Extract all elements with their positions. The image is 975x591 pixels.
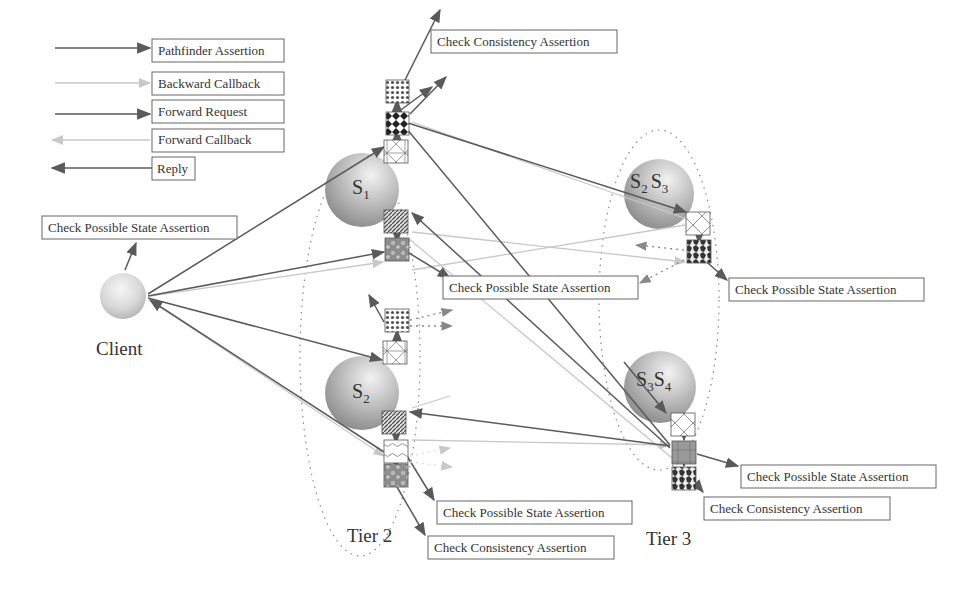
svg-text:Check Consistency Assertion: Check Consistency Assertion bbox=[710, 501, 863, 516]
svg-text:Check Consistency Assertion: Check Consistency Assertion bbox=[434, 540, 587, 555]
s3s4-state-x bbox=[671, 413, 695, 436]
legend-label-pathfinder: Pathfinder Assertion bbox=[158, 43, 265, 58]
s2-state-marble bbox=[384, 464, 408, 487]
assertion-client-possible-state: Check Possible State Assertion bbox=[42, 216, 237, 239]
s1-state-diamond bbox=[386, 112, 409, 135]
assertion-s2s3-possible-state: Check Possible State Assertion bbox=[729, 278, 924, 301]
distributed-assertion-diagram: Pathfinder Assertion Backward Callback F… bbox=[0, 0, 975, 591]
s3s4-state-grey bbox=[672, 441, 696, 464]
client-node bbox=[100, 273, 146, 319]
s1-state-web bbox=[384, 140, 408, 163]
s2-state-cloud bbox=[384, 440, 408, 463]
s1-state-dots bbox=[386, 80, 409, 103]
assertion-s3s4-consistency: Check Consistency Assertion bbox=[704, 497, 890, 520]
s2-state-hatch bbox=[382, 411, 406, 434]
svg-text:Check Possible State Assertion: Check Possible State Assertion bbox=[747, 469, 909, 484]
assertion-s1-consistency: Check Consistency Assertion bbox=[431, 30, 617, 53]
s3s4-state-rock bbox=[672, 467, 696, 490]
client-label: Client bbox=[96, 338, 143, 359]
assertion-s2-consistency: Check Consistency Assertion bbox=[428, 536, 614, 559]
legend-label-reply: Reply bbox=[157, 161, 189, 176]
svg-text:Check Possible State Assertion: Check Possible State Assertion bbox=[735, 282, 897, 297]
assertion-s3s4-possible-state: Check Possible State Assertion bbox=[741, 465, 936, 488]
svg-text:Check Possible State Assertion: Check Possible State Assertion bbox=[449, 280, 611, 295]
s3s4-stack bbox=[671, 413, 696, 490]
s1-state-marble bbox=[385, 238, 409, 261]
legend-label-forward-request: Forward Request bbox=[158, 104, 248, 119]
svg-text:Check Possible State Assertion: Check Possible State Assertion bbox=[48, 220, 210, 235]
tier2-label: Tier 2 bbox=[347, 525, 392, 546]
svg-text:Check Possible State Assertion: Check Possible State Assertion bbox=[443, 505, 605, 520]
legend-label-forward-callback: Forward Callback bbox=[158, 132, 252, 147]
s1-state-hatch bbox=[384, 210, 408, 233]
assertion-s2-possible-state: Check Possible State Assertion bbox=[437, 501, 632, 524]
s2s3-state-x bbox=[686, 212, 710, 235]
legend: Pathfinder Assertion Backward Callback F… bbox=[52, 39, 284, 180]
assertion-s1-possible-state: Check Possible State Assertion bbox=[443, 276, 638, 299]
s2-state-dots bbox=[385, 309, 409, 332]
svg-text:Check Consistency Assertion: Check Consistency Assertion bbox=[437, 34, 590, 49]
s2-state-web bbox=[383, 341, 407, 364]
legend-label-backward-callback: Backward Callback bbox=[158, 76, 261, 91]
tier3-label: Tier 3 bbox=[646, 528, 691, 549]
s2s3-state-rock bbox=[687, 240, 711, 263]
